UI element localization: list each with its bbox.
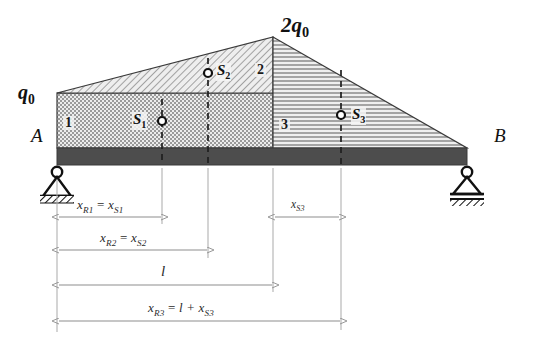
region-label-1: 1 [63, 116, 74, 130]
support-label-a: A [31, 126, 43, 145]
diagram-canvas [0, 0, 533, 350]
load-region-3 [273, 37, 467, 148]
centroid-label-s2: S2 [216, 63, 231, 81]
beam-load-diagram: q0 2q0 A B 1 2 3 S1 S2 S3 xR1 = xS1 xS3 … [0, 0, 533, 350]
dimension-label-xr2: xR2 = xS2 [100, 231, 146, 248]
support-label-b: B [494, 126, 506, 145]
dimension-label-xr1: xR1 = xS1 [77, 198, 123, 215]
load-region-2 [57, 37, 273, 93]
support-b-roller [450, 167, 484, 206]
centroid-marker-s3 [337, 111, 345, 119]
dimension-label-l: l [161, 264, 165, 279]
centroid-label-s3: S3 [351, 107, 366, 125]
dimension-label-xr3: xR3 = l + xS3 [148, 301, 214, 318]
beam [57, 148, 467, 165]
dimension-label-xs3: xS3 [291, 199, 305, 213]
centroid-marker-s1 [158, 117, 166, 125]
centroid-label-s1: S1 [132, 112, 147, 130]
centroid-marker-s2 [204, 69, 212, 77]
load-label-q0: q0 [18, 82, 35, 107]
region-label-2: 2 [255, 63, 266, 77]
load-label-2q0: 2q0 [281, 15, 309, 39]
region-label-3: 3 [279, 118, 290, 132]
